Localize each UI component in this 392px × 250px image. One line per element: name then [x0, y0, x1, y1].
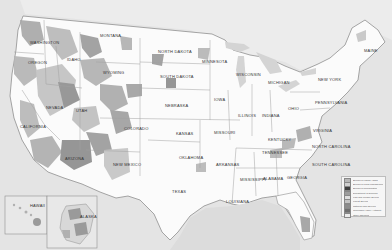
legend-swatch [344, 213, 351, 218]
state-label: Georgia [287, 175, 307, 180]
state-label: Montana [100, 33, 121, 38]
state-label: Virginia [313, 128, 332, 133]
state-label: Nebraska [165, 103, 188, 108]
state-label: Louisiana [226, 199, 249, 204]
state-label: Oregon [28, 60, 47, 65]
state-label: Maine [364, 48, 378, 53]
state-label: Minnesota [202, 59, 227, 64]
hawaii-inset [5, 196, 47, 234]
state-label: South Dakota [160, 74, 194, 79]
state-label: Pennsylvania [315, 100, 347, 105]
state-label: Arizona [65, 156, 84, 161]
state-label: Colorado [124, 126, 149, 131]
state-label: Kentucky [268, 137, 291, 142]
state-label: New Mexico [113, 162, 141, 167]
state-label: Utah [76, 108, 87, 113]
map-graphic [0, 0, 392, 250]
state-label: Kansas [176, 131, 193, 136]
map-legend: Bureau of Indian AffairsBureau of Land M… [341, 176, 386, 217]
state-label: New York [318, 77, 341, 82]
state-label: Michigan [268, 80, 290, 85]
state-label: Iowa [214, 97, 225, 102]
federal-lands-map: WashingtonMontanaNorth DakotaMinnesotaOr… [0, 0, 392, 250]
legend-item: Other agencies [344, 213, 383, 217]
state-label: Tennessee [262, 150, 288, 155]
legend-label: National Park Service [353, 205, 376, 208]
state-label: Alabama [263, 176, 283, 181]
state-label: Missouri [214, 130, 235, 135]
state-label: Texas [172, 189, 186, 194]
state-label: Washington [30, 40, 59, 45]
state-label: Wyoming [103, 70, 124, 75]
legend-label: Tennessee Valley Authority [353, 209, 382, 212]
state-label: Hawaii [30, 203, 45, 208]
state-label: Ohio [288, 106, 299, 111]
state-label: South Carolina [312, 162, 350, 167]
legend-label: Fish and Wildlife Service [353, 196, 379, 199]
state-label: Indiana [262, 113, 280, 118]
legend-label: Bureau of Land Management [353, 183, 383, 186]
legend-label: Bureau of Reclamation [353, 187, 377, 190]
state-label: Alaska [80, 214, 97, 219]
state-label: Arkansas [216, 162, 239, 167]
state-label: Idaho [67, 57, 81, 62]
state-label: North Dakota [158, 49, 192, 54]
state-label: Illinois [238, 113, 256, 118]
state-label: California [20, 124, 46, 129]
legend-label: Bureau of Indian Affairs [353, 179, 378, 182]
state-label: Wisconsin [236, 72, 261, 77]
state-label: Nevada [46, 105, 63, 110]
legend-label: Other agencies [353, 214, 369, 217]
state-label: North Carolina [312, 144, 351, 149]
legend-label: Forest Service [353, 200, 368, 203]
legend-label: Department of Defense [353, 192, 378, 195]
state-label: Oklahoma [179, 155, 203, 160]
